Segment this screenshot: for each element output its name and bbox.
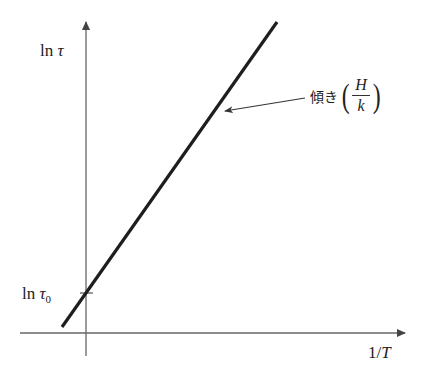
intercept-label: ln τ0 [22,285,51,305]
fraction-denominator: k [358,96,365,115]
fraction-numerator: H [352,76,370,96]
intercept-label-prefix: ln [22,284,39,303]
y-axis-label-symbol: τ [57,41,63,60]
intercept-label-subscript: 0 [46,293,52,305]
y-axis-label: ln τ [40,42,64,59]
slope-annotation: 傾き ( H k ) [310,76,382,115]
y-axis-label-prefix: ln [40,41,57,60]
x-axis-label-symbol: T [381,343,390,362]
open-paren: ( [342,79,350,113]
slope-annotation-arrow [225,98,305,111]
data-line [62,22,277,327]
x-axis-label: 1/T [368,344,391,361]
slope-annotation-text: 傾き [310,86,338,106]
close-paren: ) [373,79,381,113]
x-axis-label-prefix: 1/ [368,343,381,362]
slope-fraction: H k [352,76,370,115]
